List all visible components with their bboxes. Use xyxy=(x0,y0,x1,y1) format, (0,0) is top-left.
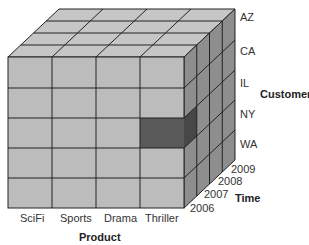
product-label-scifi: SciFi xyxy=(20,213,44,224)
product-axis-title: Product xyxy=(79,232,121,243)
time-axis-title: Time xyxy=(235,193,260,204)
customer-label-ca: CA xyxy=(240,46,255,57)
customer-label-il: IL xyxy=(240,78,249,89)
customer-axis-title: Customer xyxy=(260,89,309,100)
olap-cube xyxy=(0,0,309,245)
customer-label-az: AZ xyxy=(240,12,254,23)
customer-label-ny: NY xyxy=(240,109,255,120)
time-label-2007: 2007 xyxy=(204,189,228,200)
product-label-drama: Drama xyxy=(104,213,137,224)
highlighted-cell xyxy=(140,118,184,148)
time-label-2008: 2008 xyxy=(218,176,242,187)
product-label-sports: Sports xyxy=(60,213,92,224)
time-label-2009: 2009 xyxy=(231,164,255,175)
product-label-thriller: Thriller xyxy=(145,213,179,224)
customer-label-wa: WA xyxy=(240,139,257,150)
time-label-2006: 2006 xyxy=(190,203,214,214)
